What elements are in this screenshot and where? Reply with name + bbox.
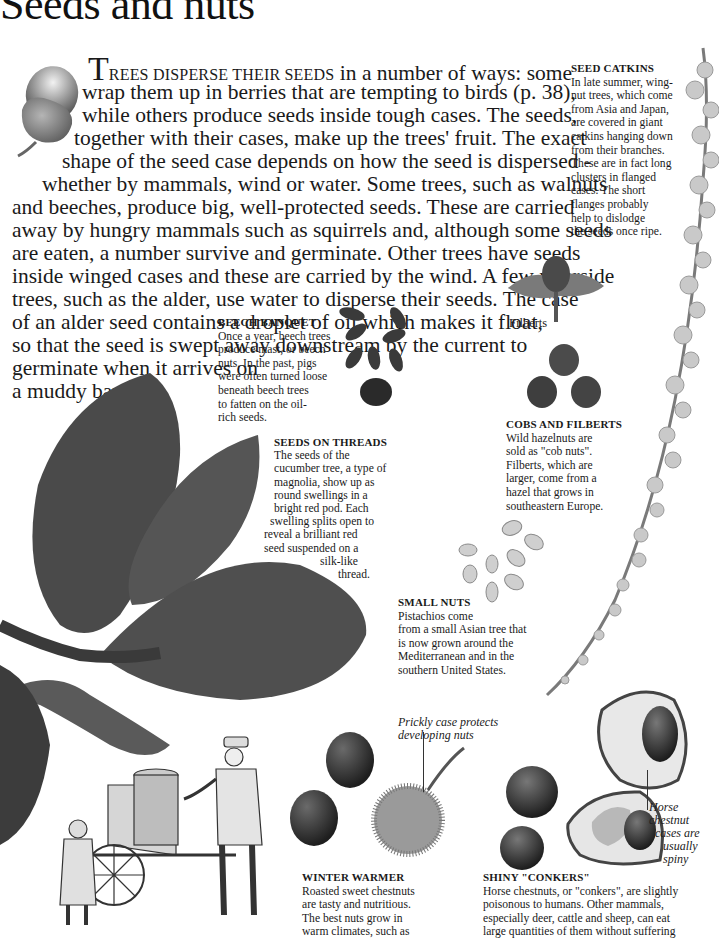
- cob-nuts-image: [520, 340, 620, 410]
- caption-line: These are in fact long: [571, 157, 673, 171]
- caption-line: nut trees, which come: [571, 89, 673, 103]
- caption-heading: BEECH BANQUET: [218, 316, 331, 330]
- caption-line: Pistachios come: [398, 610, 526, 624]
- annotation-line: spiny: [663, 853, 719, 866]
- caption-line: is now grown around the: [398, 637, 526, 651]
- caption-line: warm climates, such as: [302, 925, 415, 939]
- caption-line: poisonous to humans. Other mammals,: [483, 898, 678, 912]
- caption-line: bright red pod. Each: [274, 502, 387, 515]
- caption-heading: SEEDS ON THREADS: [274, 436, 387, 449]
- caption-line: round swellings in a: [274, 489, 387, 502]
- caption-line: silk-like: [320, 555, 387, 568]
- intro-line: are eaten, a number survive and germinat…: [12, 242, 580, 265]
- caption-line: are tasty and nutritious.: [302, 898, 415, 912]
- intro-line: together with their cases, make up the t…: [74, 127, 586, 150]
- caption-heading: SMALL NUTS: [398, 596, 526, 610]
- caption-heading: SHINY "CONKERS": [483, 871, 678, 885]
- caption-line: from Asia and Japan,: [571, 103, 673, 117]
- horse-chestnut-leader-line: [647, 770, 648, 810]
- caption-line: hazel that grows in: [506, 486, 622, 500]
- sweet-chestnuts-image: [288, 730, 468, 860]
- caption-small-nuts: SMALL NUTS Pistachios come from a small …: [398, 596, 526, 678]
- intro-line: and beeches, produce big, well-protected…: [12, 196, 575, 219]
- caption-line: produce mast, or beech: [218, 343, 331, 357]
- caption-line: sold as "cob nuts".: [506, 445, 622, 459]
- caption-line: thread.: [338, 568, 387, 581]
- caption-line: catkins hanging down: [571, 130, 673, 144]
- caption-heading: COBS AND FILBERTS: [506, 418, 622, 432]
- caption-line: magnolia, show up as: [274, 476, 387, 489]
- caption-line: southeastern Europe.: [506, 500, 622, 514]
- intro-line: shape of the seed case depends on how th…: [62, 150, 591, 173]
- caption-line: from their branches.: [571, 144, 673, 158]
- intro-line: trees, such as the alder, use water to d…: [12, 288, 579, 311]
- intro-line: whether by mammals, wind or water. Some …: [42, 173, 607, 196]
- annotation-line: Horse chestnut: [649, 801, 719, 827]
- caption-line: The seeds of the: [274, 449, 387, 462]
- caption-line: reveal a brilliant red: [264, 528, 387, 541]
- caption-line: cases. The short: [571, 184, 673, 198]
- caption-line: southern United States.: [398, 664, 526, 678]
- annotation-prickly-case: Prickly case protects developing nuts: [398, 716, 498, 742]
- caption-line: In late summer, wing-: [571, 76, 673, 90]
- intro-line: away by hungry mammals such as squirrels…: [12, 219, 612, 242]
- caption-line: Wild hazelnuts are: [506, 432, 622, 446]
- caption-line: larger, come from a: [506, 472, 622, 486]
- caption-line: large quantities of them without sufferi…: [483, 925, 678, 939]
- caption-line: from a small Asian tree that: [398, 623, 526, 637]
- caption-line: especially deer, cattle and sheep, can e…: [483, 912, 678, 926]
- caption-line: Filberts, which are: [506, 459, 622, 473]
- annotation-horse-chestnut-cases: Horse chestnut cases are usually spiny: [649, 801, 719, 866]
- caption-seeds-on-threads: SEEDS ON THREADS The seeds of the cucumb…: [274, 436, 387, 581]
- caption-line: clusters in flanged: [571, 171, 673, 185]
- caption-line: Horse chestnuts, or "conkers", are sligh…: [483, 885, 678, 899]
- caption-shiny-conkers: SHINY "CONKERS" Horse chestnuts, or "con…: [483, 871, 678, 939]
- caption-heading: SEED CATKINS: [571, 62, 673, 76]
- chestnut-vendor-illustration: [56, 735, 266, 931]
- intro-line: wrap them up in berries that are temptin…: [82, 81, 576, 104]
- pistachios-image: [456, 516, 556, 606]
- caption-line: flanges probably: [571, 198, 673, 212]
- caption-line: are covered in giant: [571, 116, 673, 130]
- intro-line: while others produce seeds inside tough …: [82, 104, 577, 127]
- caption-line: help to dislodge: [571, 212, 673, 226]
- caption-line: Roasted sweet chestnuts: [302, 885, 415, 899]
- filberts-label: Filberts: [509, 317, 547, 331]
- caption-line: the seeds once ripe.: [571, 225, 673, 239]
- caption-line: Mediterranean and in the: [398, 650, 526, 664]
- caption-line: The best nuts grow in: [302, 912, 415, 926]
- annotation-line: developing nuts: [398, 729, 498, 742]
- caption-cobs-and-filberts: COBS AND FILBERTS Wild hazelnuts are sol…: [506, 418, 622, 513]
- caption-winter-warmer: WINTER WARMER Roasted sweet chestnuts ar…: [302, 871, 415, 939]
- caption-line: seed suspended on a: [264, 542, 387, 555]
- caption-seed-catkins: SEED CATKINS In late summer, wing- nut t…: [571, 62, 673, 239]
- caption-line: cucumber tree, a type of: [274, 462, 387, 475]
- caption-heading: WINTER WARMER: [302, 871, 415, 885]
- caption-line: Once a year, beech trees: [218, 330, 331, 344]
- caption-line: swelling splits open to: [270, 515, 387, 528]
